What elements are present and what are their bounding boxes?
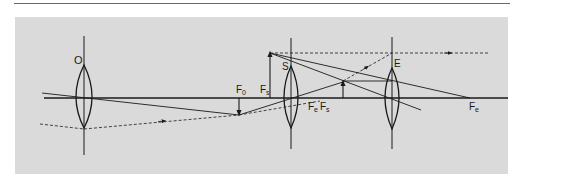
solid-rays — [42, 53, 470, 115]
field-lens-label: S — [282, 61, 289, 72]
eyepiece-label: E — [394, 58, 401, 69]
focal-label-Fs-upper: Fs — [260, 84, 270, 96]
focal-label-Fe-right: Fe — [469, 101, 479, 113]
optical-diagram: O S E F0 Fs Fe Fs Fe — [0, 0, 574, 192]
ray-arrows — [158, 53, 450, 122]
focal-label-F0: F0 — [236, 84, 246, 96]
field-lens — [284, 38, 298, 149]
focal-label-Fe-mid: Fe — [308, 101, 318, 113]
eyepiece-lens — [385, 37, 399, 149]
objective-label: O — [74, 54, 83, 66]
focal-label-Fs-mid: Fs — [320, 101, 330, 113]
